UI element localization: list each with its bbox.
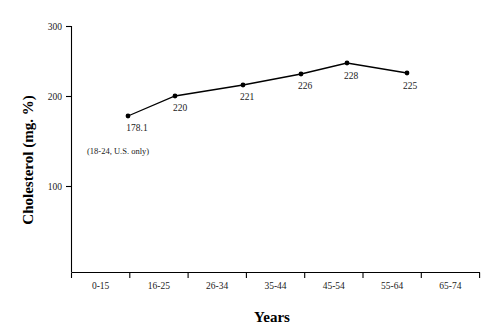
x-tick-label-26-34: 26-34 <box>206 281 228 291</box>
x-tick-label-16-25: 16-25 <box>148 281 170 291</box>
y-axis-title: Cholesterol (mg. %) <box>20 95 37 224</box>
chart-figure: 300 200 100 Cholesterol (mg. %) 0-15 16-… <box>0 0 502 332</box>
data-point-marker[interactable] <box>173 94 178 99</box>
data-point-marker[interactable] <box>241 83 246 88</box>
data-label-228: 228 <box>344 71 359 81</box>
data-label-226: 226 <box>298 81 313 91</box>
data-label-220: 220 <box>173 103 188 113</box>
x-tick-label-55-64: 55-64 <box>381 281 403 291</box>
x-tick-label-65-74: 65-74 <box>439 281 461 291</box>
data-label-178-1: 178.1 <box>126 123 148 133</box>
data-series <box>126 61 410 119</box>
data-point-marker[interactable] <box>345 61 350 66</box>
x-tick-label-35-44: 35-44 <box>264 281 286 291</box>
x-axis: 0-15 16-25 26-34 35-44 45-54 55-64 65-74… <box>72 273 481 326</box>
footnote-annotation: (18-24, U.S. only) <box>87 146 149 156</box>
y-tick-label-100: 100 <box>48 182 63 192</box>
x-tick-label-0-15: 0-15 <box>92 281 110 291</box>
x-axis-title: Years <box>254 309 290 325</box>
data-label-225: 225 <box>403 81 418 91</box>
y-tick-label-300: 300 <box>48 22 63 32</box>
data-point-marker[interactable] <box>405 71 410 76</box>
x-tick-label-45-54: 45-54 <box>323 281 345 291</box>
data-label-221: 221 <box>240 92 255 102</box>
data-point-marker[interactable] <box>299 72 304 77</box>
cholesterol-by-age-line-chart: 300 200 100 Cholesterol (mg. %) 0-15 16-… <box>0 0 502 332</box>
data-point-marker[interactable] <box>126 114 131 119</box>
y-tick-label-200: 200 <box>48 92 63 102</box>
data-point-labels: 178.1 220 221 226 228 225 <box>126 71 417 133</box>
series-polyline <box>128 63 407 116</box>
y-axis: 300 200 100 Cholesterol (mg. %) <box>20 22 72 272</box>
